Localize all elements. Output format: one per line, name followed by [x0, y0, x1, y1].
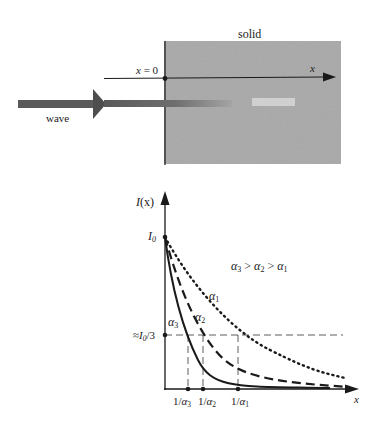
x-tick-alpha1-label: 1/α1: [231, 395, 249, 409]
wave-beam-outside: [18, 100, 94, 108]
intensity-chart: I(x) I0 ≈I0/3 α3 > α2 > α1 α1 α2 α3 1/α3…: [133, 191, 359, 409]
curve-label-alpha3: α3: [168, 315, 178, 330]
origin-dot: [163, 76, 168, 81]
guide-lines: [165, 335, 343, 389]
x-axis-label: x: [309, 62, 315, 74]
alpha-relation-annotation: α3 > α2 > α1: [231, 259, 288, 274]
wave-solid-diagram: solid x = 0 x wave: [18, 27, 341, 165]
x-axis-label: x: [353, 393, 359, 405]
y-tick-I0-dot: [163, 235, 168, 240]
origin-label: x = 0: [135, 64, 159, 76]
curve-label-alpha2: α2: [195, 310, 205, 325]
y-tick-third-label: ≈I0/3: [133, 329, 156, 343]
wave-faint-bar: [252, 98, 295, 106]
curve-label-alpha1: α1: [209, 289, 219, 304]
x-tick-alpha2-label: 1/α2: [198, 395, 216, 409]
solid-label: solid: [238, 27, 261, 41]
x-tick-alpha3-dot: [186, 387, 191, 392]
y-tick-I0-label: I0: [147, 229, 156, 244]
y-tick-third-dot: [163, 333, 168, 338]
wave-label: wave: [46, 112, 69, 124]
y-axis-label: I(x): [135, 195, 154, 209]
figure: solid x = 0 x wave: [0, 0, 375, 422]
x-tick-alpha2-dot: [201, 387, 206, 392]
x-tick-alpha3-label: 1/α3: [173, 395, 191, 409]
wave-beam-inside: [104, 100, 232, 107]
y-axis-arrowhead-icon: [161, 191, 170, 205]
x-tick-alpha1-dot: [236, 387, 241, 392]
